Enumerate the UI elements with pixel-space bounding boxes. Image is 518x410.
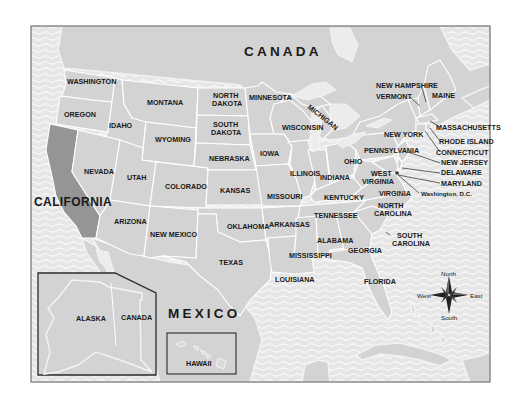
label-canada: CANADA bbox=[244, 44, 322, 59]
label-alaska: ALASKA bbox=[76, 314, 106, 323]
label-connecticut: CONNECTICUT bbox=[436, 148, 489, 157]
label-vermont: VERMONT bbox=[376, 92, 413, 101]
label-oklahoma: OKLAHOMA bbox=[227, 222, 269, 231]
label-wyoming: WYOMING bbox=[155, 135, 191, 144]
label-washington: WASHINGTON bbox=[67, 77, 116, 86]
dc-marker bbox=[395, 171, 399, 175]
label-texas: TEXAS bbox=[219, 258, 243, 267]
label-iowa: IOWA bbox=[260, 149, 279, 158]
label-nebraska: NEBRASKA bbox=[209, 154, 250, 163]
label-mexico: MEXICO bbox=[168, 306, 240, 321]
label-rhode-island: RHODE ISLAND bbox=[439, 137, 494, 146]
label-arkansas: ARKANSAS bbox=[269, 220, 310, 229]
label-mississippi: MISSISSIPPI bbox=[289, 251, 332, 260]
label-south-dakota-2: DAKOTA bbox=[211, 128, 241, 137]
label-maine: MAINE bbox=[432, 91, 455, 100]
label-new-jersey: NEW JERSEY bbox=[441, 158, 488, 167]
label-missouri: MISSOURI bbox=[267, 192, 303, 201]
label-ohio: OHIO bbox=[344, 157, 363, 166]
label-utah: UTAH bbox=[127, 173, 146, 182]
label-hawaii: HAWAII bbox=[186, 359, 212, 368]
label-wisconsin: WISCONSIN bbox=[282, 123, 324, 132]
label-delaware: DELAWARE bbox=[441, 168, 482, 177]
label-tennessee: TENNESSEE bbox=[314, 211, 358, 220]
alaska-inset bbox=[38, 273, 156, 375]
compass-east-label: East bbox=[470, 292, 483, 299]
label-idaho: IDAHO bbox=[109, 121, 133, 130]
label-california: CALIFORNIA bbox=[34, 195, 112, 209]
label-north-dakota-2: DAKOTA bbox=[212, 99, 242, 108]
label-washington-dc: Washington, D.C. bbox=[421, 190, 472, 197]
label-south-carolina-2: CAROLINA bbox=[392, 239, 430, 248]
label-nevada: NEVADA bbox=[84, 167, 114, 176]
label-maryland: MARYLAND bbox=[441, 179, 482, 188]
state-wyoming bbox=[142, 122, 196, 166]
us-map: CANADA MEXICO WASHINGTON OREGON CALIFORN… bbox=[0, 0, 518, 410]
label-arizona: ARIZONA bbox=[114, 217, 147, 226]
label-montana: MONTANA bbox=[147, 98, 183, 107]
label-new-mexico: NEW MEXICO bbox=[150, 230, 198, 239]
label-alabama: ALABAMA bbox=[317, 236, 353, 245]
label-kansas: KANSAS bbox=[220, 186, 251, 195]
label-oregon: OREGON bbox=[64, 110, 96, 119]
label-new-york: NEW YORK bbox=[384, 130, 424, 139]
compass-north-label: North bbox=[441, 270, 457, 277]
label-virginia: VIRGINIA bbox=[379, 189, 411, 198]
label-massachusetts: MASSACHUSETTS bbox=[436, 123, 501, 132]
label-illinois: ILLINOIS bbox=[290, 169, 321, 178]
label-minnesota: MINNESOTA bbox=[249, 93, 292, 102]
compass-south-label: South bbox=[441, 314, 458, 321]
label-georgia: GEORGIA bbox=[348, 246, 382, 255]
label-alaska-canada: CANADA bbox=[121, 313, 152, 322]
compass-west-label: West bbox=[417, 292, 431, 299]
label-new-hampshire: NEW HAMPSHIRE bbox=[376, 81, 438, 90]
label-louisiana: LOUISIANA bbox=[275, 275, 315, 284]
label-colorado: COLORADO bbox=[165, 182, 207, 191]
label-pennsylvania: PENNSYLVANIA bbox=[364, 146, 419, 155]
label-west-virginia-2: VIRGINIA bbox=[362, 177, 394, 186]
label-florida: FLORIDA bbox=[364, 277, 396, 286]
label-kentucky: KENTUCKY bbox=[324, 193, 364, 202]
label-indiana: INDIANA bbox=[320, 173, 350, 182]
label-north-carolina-2: CAROLINA bbox=[374, 209, 412, 218]
